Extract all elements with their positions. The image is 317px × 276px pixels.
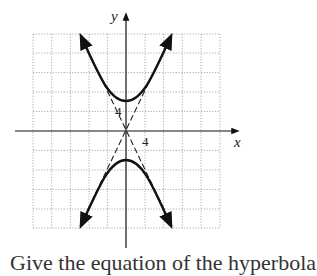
- y-tick-label: 4: [115, 104, 122, 120]
- x-tick-label: 4: [142, 134, 149, 150]
- y-axis-label: y: [111, 8, 118, 25]
- x-axis-label: x: [234, 134, 241, 151]
- caption: Give the equation of the hyperbola: [10, 250, 316, 276]
